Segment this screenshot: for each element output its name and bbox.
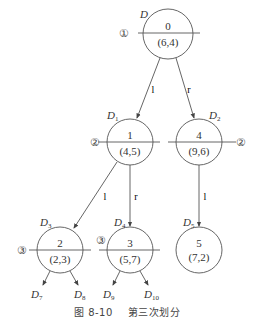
node-5-id: 5 [196,237,202,249]
node-3-point: (5,7) [119,253,140,266]
set-label-d9: D9 [102,288,115,302]
node-2-id: 2 [57,237,63,249]
edge-3-d9 [113,271,120,285]
node-1-id: 1 [127,129,133,141]
node-5 [176,227,222,273]
edge-label-4-5: l [204,191,207,202]
edge-2-d8 [70,271,78,285]
edge-label-0-4: r [187,84,191,95]
set-label-d10: D10 [143,288,159,302]
set-label-d4: D4 [113,216,126,230]
caption-text: 第三次划分 [128,307,181,318]
edge-1-2 [74,162,117,228]
step-marker-2-left: ② [90,136,100,148]
node-0-point: (6,4) [157,36,178,49]
caption-number: 图 8-10 [74,307,113,318]
set-label-d3: D3 [39,216,52,230]
set-label-d7: D7 [30,288,43,302]
edge-0-4 [176,58,194,118]
node-4-id: 4 [196,129,202,141]
set-label-d: D [139,8,148,20]
set-label-d5: D5 [182,216,195,230]
edge-label-1-2: l [104,191,107,202]
node-4-point: (9,6) [188,145,209,158]
kd-tree-diagram: l r l r l 0 (6,4) 1 (4,5) 4 (9,6) 2 (2,3… [0,0,254,326]
edge-2-d7 [43,271,50,285]
node-0-id: 0 [165,20,171,32]
node-2-point: (2,3) [49,253,70,266]
step-marker-3-right: ③ [96,234,106,246]
figure-caption: 图 8-10 第三次划分 [0,304,254,319]
step-marker-3-left: ③ [17,244,27,256]
node-5-point: (7,2) [188,251,209,264]
node-0 [143,9,193,59]
edge-label-1-3: r [134,191,138,202]
node-1-point: (4,5) [119,145,140,158]
node-3-id: 3 [127,237,133,249]
set-label-d2: D2 [208,109,221,123]
edge-0-1 [137,58,160,118]
edge-label-0-1: l [152,84,155,95]
step-marker-1: ① [119,27,129,39]
edge-3-d10 [140,271,148,285]
set-label-d8: D8 [73,288,86,302]
step-marker-2-right: ② [236,136,246,148]
set-label-d1: D1 [106,109,119,123]
